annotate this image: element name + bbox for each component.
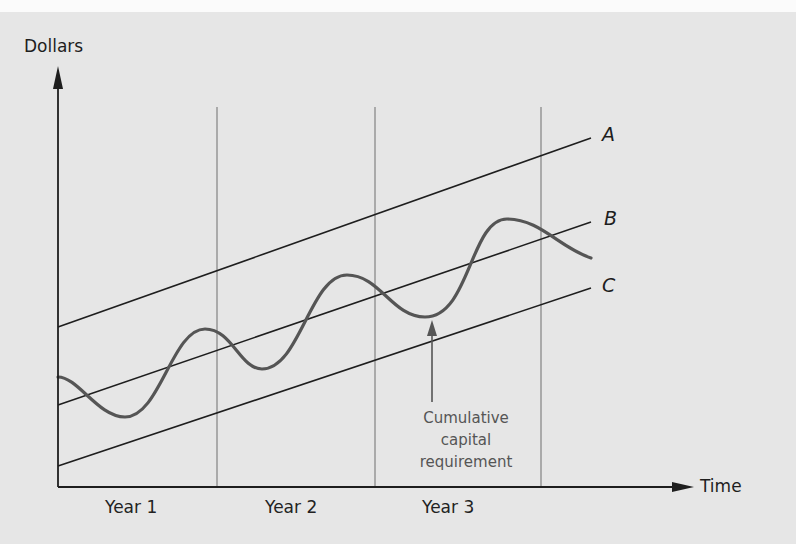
line-a <box>58 138 591 327</box>
financing-diagram <box>0 0 796 544</box>
x-axis-label: Time <box>700 476 742 496</box>
line-a-label: A <box>602 123 615 145</box>
annotation-line-3: requirement <box>410 451 522 473</box>
axes <box>58 82 680 487</box>
annotation-line-1: Cumulative <box>410 407 522 429</box>
line-c-label: C <box>602 274 615 296</box>
period-label-year-2: Year 2 <box>265 497 317 517</box>
line-b-label: B <box>604 207 617 229</box>
curve-annotation: Cumulative capital requirement <box>410 407 522 473</box>
period-label-year-3: Year 3 <box>422 497 474 517</box>
period-label-year-1: Year 1 <box>105 497 157 517</box>
y-axis-arrow-icon <box>53 66 63 89</box>
annotation-pointer <box>427 320 437 402</box>
x-axis-arrow-icon <box>672 482 694 492</box>
annotation-line-2: capital <box>410 429 522 451</box>
pointer-arrowhead-icon <box>427 320 437 336</box>
y-axis-label: Dollars <box>24 36 83 56</box>
